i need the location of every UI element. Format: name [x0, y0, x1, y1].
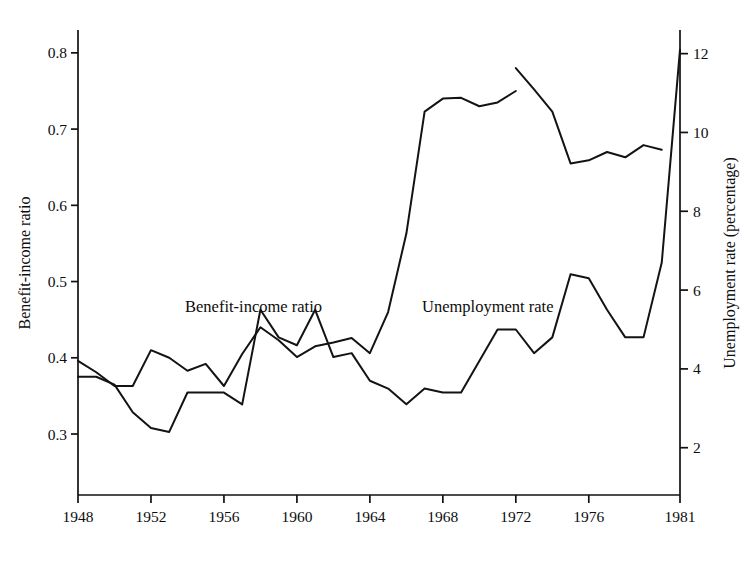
right-tick-label: 6 [693, 282, 701, 299]
left-tick-label: 0.4 [48, 349, 68, 366]
left-tick-label: 0.7 [48, 121, 68, 138]
x-tick-label: 1976 [573, 508, 604, 525]
x-axis-tick-labels: 194819521956196019641968197219761981 [63, 508, 696, 525]
series-label-benefit-income-ratio: Benefit-income ratio [185, 297, 322, 316]
right-tick-label: 2 [693, 439, 701, 456]
series-label-unemployment-rate: Unemployment rate [422, 297, 554, 316]
series-line-benefit-income-ratio [516, 68, 662, 163]
left-tick-label: 0.5 [48, 273, 68, 290]
left-tick-label: 0.3 [48, 426, 68, 443]
left-axis-tick-labels: 0.30.40.50.60.70.8 [48, 44, 68, 442]
left-axis-title: Benefit-income ratio [16, 197, 33, 330]
x-tick-label: 1964 [354, 508, 385, 525]
series-line-benefit-income-ratio [78, 91, 516, 386]
x-tick-label: 1981 [665, 508, 696, 525]
x-axis-ticks [78, 495, 680, 503]
x-tick-label: 1960 [281, 508, 312, 525]
right-tick-label: 12 [693, 45, 709, 62]
series-line-unemployment-rate [78, 50, 680, 432]
right-tick-label: 10 [693, 124, 709, 141]
x-tick-label: 1968 [427, 508, 458, 525]
left-axis-ticks [71, 53, 78, 434]
right-axis-title: Unemployment rate (percentage) [721, 157, 739, 368]
right-axis-ticks [680, 54, 688, 448]
left-tick-label: 0.6 [48, 197, 68, 214]
data-series-group [78, 50, 680, 432]
right-axis-tick-labels: 24681012 [693, 45, 709, 456]
x-tick-label: 1948 [63, 508, 94, 525]
x-tick-label: 1956 [208, 508, 239, 525]
left-tick-label: 0.8 [48, 44, 68, 61]
right-tick-label: 4 [693, 360, 701, 377]
x-tick-label: 1972 [500, 508, 531, 525]
chart-canvas: 0.30.40.50.60.70.8 24681012 194819521956… [0, 0, 752, 567]
right-tick-label: 8 [693, 203, 701, 220]
chart-figure: 0.30.40.50.60.70.8 24681012 194819521956… [0, 0, 752, 567]
x-tick-label: 1952 [135, 508, 166, 525]
